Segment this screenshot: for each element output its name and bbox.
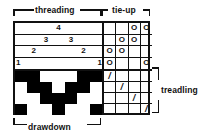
tieup-cell[interactable] <box>116 58 128 70</box>
weaving-draft-figure: threading tie-up 4 3 3 <box>0 0 201 137</box>
treadling-cell[interactable]: / <box>116 82 128 92</box>
treadling-cell[interactable]: / <box>104 71 116 81</box>
drawdown-cell <box>15 82 27 93</box>
threading-cell <box>40 46 52 57</box>
tieup-grid: O O O O O O O O <box>102 23 152 69</box>
tieup-row: O O <box>104 58 152 70</box>
threading-cell: 3 <box>65 35 77 46</box>
treadling-row: / <box>104 71 152 82</box>
treadling-cell[interactable] <box>141 82 152 92</box>
threading-cell: 2 <box>27 46 39 57</box>
treadling-cell[interactable] <box>129 82 141 92</box>
drawdown-cell <box>27 71 39 82</box>
drawdown-cell <box>90 104 102 115</box>
treadling-row: / <box>104 104 152 115</box>
drawdown-grid <box>15 69 102 115</box>
drawdown-cell <box>52 104 64 115</box>
treadling-cell[interactable] <box>129 104 141 115</box>
threading-cell <box>40 23 52 34</box>
drawdown-cell <box>90 71 102 82</box>
threading-row: 3 3 <box>15 35 102 47</box>
tieup-cell[interactable] <box>104 23 116 34</box>
tieup-cell[interactable]: O <box>116 46 128 57</box>
drawdown-cell <box>40 104 52 115</box>
tieup-label: tie-up <box>112 6 136 15</box>
tieup-cell[interactable]: O <box>116 35 128 46</box>
tieup-cell[interactable]: O <box>104 58 116 70</box>
drawdown-cell <box>27 104 39 115</box>
treadling-cell[interactable] <box>141 93 152 103</box>
treadling-cell[interactable] <box>116 104 128 115</box>
drawdown-row <box>15 82 102 93</box>
drawdown-cell <box>52 82 64 93</box>
tieup-cell[interactable]: O <box>129 35 141 46</box>
treadling-grid: / / / / <box>102 69 152 115</box>
drawdown-cell <box>65 104 77 115</box>
tieup-row: O O <box>104 23 152 35</box>
draft-grid: 4 3 3 2 2 <box>13 21 150 115</box>
threading-cell <box>65 23 77 34</box>
tieup-cell[interactable] <box>116 23 128 34</box>
drawdown-label: drawdown <box>28 123 71 132</box>
treadling-cell[interactable] <box>104 93 116 103</box>
drawdown-row <box>15 93 102 104</box>
threading-cell <box>40 58 52 70</box>
threading-label: threading <box>35 6 75 15</box>
drawdown-cell <box>40 71 52 82</box>
treadling-cell[interactable] <box>116 93 128 103</box>
tieup-cell[interactable] <box>129 58 141 70</box>
drawdown-cell <box>77 71 89 82</box>
threading-cell <box>15 46 27 57</box>
drawdown-cell <box>15 93 27 104</box>
tieup-cell[interactable] <box>141 46 152 57</box>
drawdown-cell <box>77 93 89 104</box>
tieup-row: O O <box>104 46 152 58</box>
drawdown-cell <box>90 82 102 93</box>
drawdown-cell <box>27 93 39 104</box>
tieup-cell[interactable]: O <box>129 23 141 34</box>
treadling-cell[interactable] <box>141 71 152 81</box>
tieup-cell[interactable]: O <box>141 23 152 34</box>
threading-cell: 4 <box>52 23 64 34</box>
treadling-cell[interactable]: / <box>141 104 152 115</box>
treadling-cell[interactable] <box>104 104 116 115</box>
tieup-row: O O <box>104 35 152 47</box>
drawdown-cell <box>65 71 77 82</box>
treadling-cell[interactable] <box>116 71 128 81</box>
treadling-cell[interactable] <box>104 82 116 92</box>
treadling-row: / <box>104 93 152 104</box>
threading-cell: 2 <box>77 46 89 57</box>
treadling-cell[interactable]: / <box>129 93 141 103</box>
threading-cell <box>15 35 27 46</box>
threading-cell <box>90 23 102 34</box>
drawdown-cell <box>65 93 77 104</box>
threading-cell <box>27 58 39 70</box>
threading-cell <box>65 46 77 57</box>
drawdown-cell <box>77 104 89 115</box>
threading-cell <box>77 23 89 34</box>
tieup-cell[interactable] <box>129 46 141 57</box>
tieup-cell[interactable]: O <box>141 58 152 70</box>
treadling-row: / <box>104 82 152 93</box>
threading-row: 1 1 <box>15 58 102 70</box>
drawdown-cell <box>40 82 52 93</box>
tieup-cell[interactable] <box>104 35 116 46</box>
threading-row: 2 2 <box>15 46 102 58</box>
threading-cell <box>52 46 64 57</box>
treadling-cell[interactable] <box>129 71 141 81</box>
drawdown-cell <box>40 93 52 104</box>
threading-cell <box>15 23 27 34</box>
threading-grid: 4 3 3 2 2 <box>15 23 102 69</box>
drawdown-cell <box>52 71 64 82</box>
drawdown-cell <box>15 71 27 82</box>
threading-row: 4 <box>15 23 102 35</box>
threading-cell: 1 <box>90 58 103 70</box>
tieup-cell[interactable] <box>141 35 152 46</box>
tieup-cell[interactable]: O <box>104 46 116 57</box>
drawdown-cell <box>77 82 89 93</box>
threading-cell <box>77 58 89 70</box>
threading-cell <box>77 35 89 46</box>
drawdown-cell <box>27 82 39 93</box>
treadling-label: treadling <box>161 86 198 95</box>
threading-cell <box>90 35 102 46</box>
